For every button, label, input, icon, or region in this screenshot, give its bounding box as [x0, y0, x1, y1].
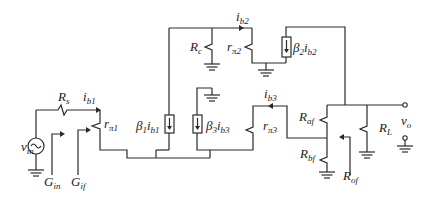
label-vin: vin	[21, 139, 34, 156]
label-rc: Rc	[189, 39, 202, 56]
label-beta1: β1ib1	[135, 118, 160, 135]
vin-source	[28, 110, 44, 176]
rpi2-resistor	[245, 28, 286, 63]
label-rpi2: rπ2	[227, 39, 242, 56]
output-network	[319, 103, 413, 178]
gif-arrow	[78, 127, 91, 175]
label-rof: Rof	[342, 168, 359, 185]
label-gin: Gin	[44, 174, 61, 191]
label-ib2: ib2	[236, 9, 249, 26]
label-rpi3: rπ3	[263, 118, 278, 135]
label-raf: Raf	[298, 109, 315, 126]
label-rs: Rs	[57, 89, 70, 106]
label-beta3: β3ib3	[205, 118, 230, 135]
label-vo: vo	[401, 113, 412, 130]
ground-icon	[28, 170, 44, 176]
rl-resistor	[360, 105, 367, 152]
gin-arrow	[52, 131, 65, 175]
stage2-network	[169, 25, 345, 105]
beta1-current-source	[156, 28, 174, 158]
label-ib1: ib1	[83, 89, 96, 106]
label-beta2: β2ib2	[292, 40, 317, 57]
arrow-ib3-icon	[268, 103, 273, 109]
label-ib3: ib3	[264, 86, 277, 103]
label-gif: Gif	[71, 174, 87, 191]
label-rpi1: rπ1	[104, 116, 118, 133]
circuit-diagram: vin Rs ib1 rπ1 Gin Gif β1ib1 β3ib3 β2ib2…	[0, 0, 421, 198]
rs-resistor	[36, 105, 101, 115]
rc-resistor	[205, 28, 212, 64]
label-rl: RL	[378, 120, 392, 137]
label-rbf: Rbf	[299, 146, 316, 163]
